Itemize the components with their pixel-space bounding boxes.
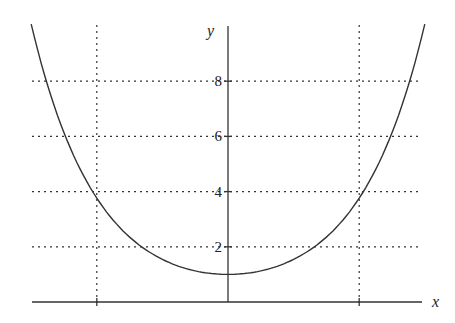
tick-labels: 2468 xyxy=(215,73,223,255)
y-tick-label: 4 xyxy=(215,184,223,200)
grid-lines xyxy=(32,25,422,302)
y-axis-label: y xyxy=(205,22,215,40)
y-tick-label: 6 xyxy=(215,128,223,144)
y-tick-label: 2 xyxy=(215,239,223,255)
x-axis-label: x xyxy=(431,293,439,310)
axes xyxy=(32,26,422,302)
chart: 2468 y x xyxy=(0,0,455,323)
y-tick-label: 8 xyxy=(215,73,223,89)
